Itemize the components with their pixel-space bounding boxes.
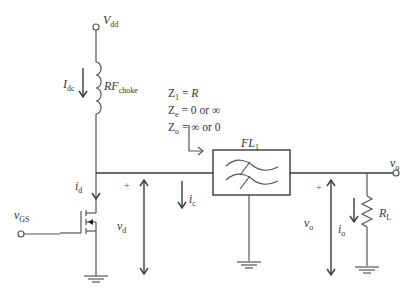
vd-label-sub: d [122,226,126,235]
mosfet-symbol [24,210,96,276]
z1-line: Z1 = R [168,87,221,104]
vd-voltage-arrow-icon [140,180,148,274]
id-label: id [75,180,82,195]
impedance-annotation: Z1 = R Ze = 0 or ∞ Zo = ∞ or 0 [168,87,221,138]
ic-arrow-icon [178,181,186,208]
rf-choke-inductor [96,62,101,114]
ic-label: ic [189,193,196,208]
mosfet-body-arrow-icon [88,219,93,225]
rf-choke-label: RFchoke [104,80,138,95]
vdd-label-sub: dd [110,20,118,29]
vdd-terminal [93,24,99,30]
filter-fl1-block [213,150,290,268]
rf-choke-label-sub: choke [119,86,138,95]
fl1-label-main: FL [241,136,255,150]
ground-icon [84,276,108,282]
vo-terminal-label-sub: o [395,163,399,172]
vgs-input-terminal [18,231,24,237]
io-label: io [338,223,345,238]
rl-label-sub: L [386,213,391,222]
schematic-drawing [0,0,414,302]
vgs-label: vGS [14,209,30,224]
vgs-label-sub: GS [19,215,29,224]
idc-label: Idc [63,78,75,93]
vo-voltage-arrow-icon [327,180,335,275]
vd-plus-sign: + [124,180,130,191]
vo-plus-sign: + [316,182,322,193]
fl1-label-sub: 1 [255,143,259,152]
fl1-label: FL1 [241,137,259,152]
rl-label: RL [379,207,391,222]
vo-terminal-label: vo [390,157,399,172]
rf-choke-label-main: RF [104,79,119,93]
io-arrow-icon [350,198,358,222]
ic-label-sub: c [192,199,196,208]
vd-label: vd [117,220,126,235]
vdd-label: Vdd [103,14,118,29]
load-resistor-rl [355,173,379,273]
io-label-sub: o [341,229,345,238]
vo-label-sub: o [309,223,313,232]
id-label-sub: d [78,186,82,195]
idc-label-sub: dc [67,84,75,93]
ze-line: Ze = 0 or ∞ [168,104,221,121]
zo-line: Zo = ∞ or 0 [168,121,221,138]
idc-arrow-icon [79,68,87,97]
vo-label: vo [304,217,313,232]
circuit-diagram: Vdd Idc RFchoke Z1 = R Ze = 0 or ∞ Zo = … [0,0,414,302]
